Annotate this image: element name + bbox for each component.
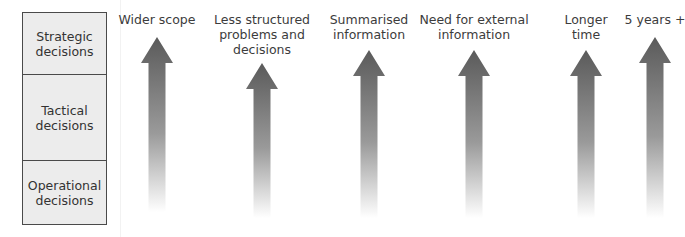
up-arrow-icon (570, 50, 602, 218)
arrow-label: Need for externalinformation (419, 12, 528, 42)
level-strategic: Strategicdecisions (23, 13, 106, 74)
up-arrow-icon (458, 50, 490, 218)
level-tactical-label: Tacticaldecisions (35, 103, 93, 133)
arrow-label: Less structuredproblems anddecisions (214, 12, 310, 57)
divider (120, 0, 121, 237)
arrow-label: Wider scope (119, 12, 196, 27)
level-strategic-label: Strategicdecisions (35, 29, 93, 59)
level-operational-label: Operationaldecisions (28, 178, 101, 208)
level-operational: Operationaldecisions (23, 160, 106, 225)
arrow-label: Longertime (564, 12, 607, 42)
up-arrow-icon (141, 37, 173, 212)
arrow-label: 5 years + (625, 12, 685, 27)
up-arrow-icon (353, 50, 385, 218)
up-arrow-icon (246, 63, 278, 218)
level-tactical: Tacticaldecisions (23, 74, 106, 161)
up-arrow-icon (639, 37, 671, 218)
decision-levels-box: Strategicdecisions Tacticaldecisions Ope… (22, 12, 107, 225)
arrow-label: Summarisedinformation (330, 12, 409, 42)
